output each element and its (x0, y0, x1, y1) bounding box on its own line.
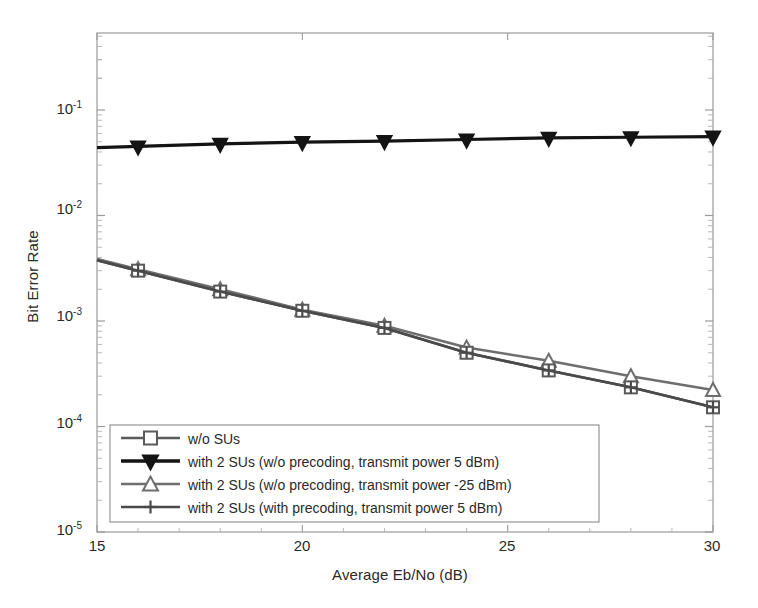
legend-label-3[interactable]: with 2 SUs (with precoding, transmit pow… (188, 500, 502, 516)
legend-label-1[interactable]: with 2 SUs (w/o precoding, transmit powe… (188, 454, 499, 470)
series-1 (97, 132, 720, 155)
data-series-layer (97, 132, 720, 414)
legend-label-2[interactable]: with 2 SUs (w/o precoding, transmit powe… (188, 477, 512, 493)
chart-figure: Bit Error Rate Average Eb/No (dB) 10-1 1… (0, 0, 758, 608)
series-2 (97, 259, 720, 396)
plot-canvas (0, 0, 758, 608)
legend-label-0[interactable]: w/o SUs (188, 431, 240, 447)
